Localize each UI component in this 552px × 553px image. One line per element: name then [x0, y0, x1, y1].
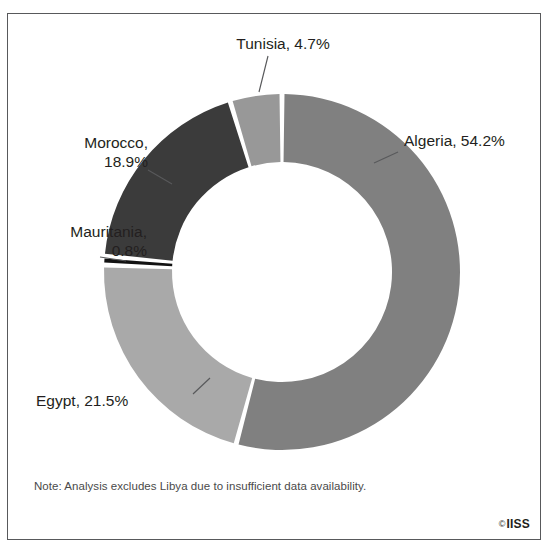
chart-panel	[7, 13, 541, 540]
title-clip-region: Defence budgets in the Maghreb	[0, 0, 552, 13]
copyright-icon: ©	[499, 519, 506, 529]
credit-label: IISS	[507, 517, 530, 531]
slice-label-mauritania: Mauritania, 0.8%	[4, 222, 147, 260]
slice-label-tunisia: Tunisia, 4.7%	[203, 34, 363, 53]
slice-label-egypt: Egypt, 21.5%	[36, 391, 201, 410]
slice-label-morocco: Morocco, 18.9%	[18, 133, 148, 171]
credit-iiss: ©IISS	[499, 517, 530, 531]
slice-label-algeria: Algeria, 54.2%	[404, 131, 552, 150]
chart-footnote: Note: Analysis excludes Libya due to ins…	[34, 480, 366, 492]
